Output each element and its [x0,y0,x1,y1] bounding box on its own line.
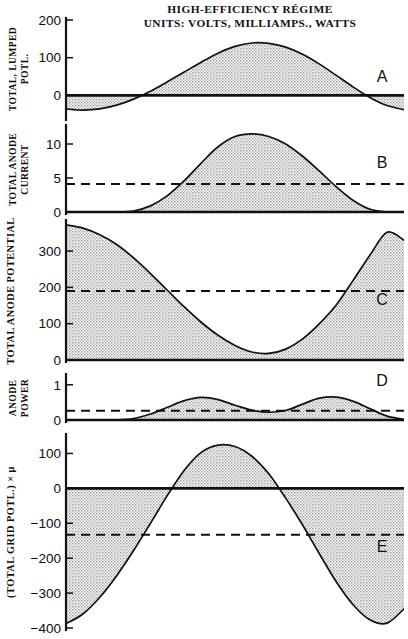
y-tick-label-d-1: 1 [53,378,61,393]
y-tick-label-d-0: 0 [53,413,61,428]
chart-panel-d: 01ANODEPOWERD [7,372,404,428]
y-tick-label-a-2: 200 [38,13,61,28]
y-axis-title-d-line-0: ANODE [7,380,18,417]
y-axis-title-c-line-0: TOTAL ANODE POTENTIAL [5,217,16,364]
panel-letter-b: B [377,154,388,171]
y-tick-label-e-0: −400 [31,621,61,636]
panel-letter-a: A [377,68,388,85]
y-axis-title-d-line-1: POWER [19,378,30,417]
y-tick-label-a-1: 100 [38,50,61,65]
y-tick-label-e-5: 100 [38,446,61,461]
y-axis-title-a-line-1: POTL. [19,54,30,85]
panel-letter-d: D [376,372,388,389]
y-tick-label-c-3: 300 [38,244,61,259]
y-tick-label-b-2: 10 [46,137,61,152]
curve-fill-a [66,43,404,110]
y-tick-label-e-3: −100 [31,516,61,531]
y-axis-title-b-line-1: CURRENT [19,144,30,194]
panel-group: 0100200TOTAL, LUMPEDPOTL.A0510TOTAL ANOD… [5,13,404,636]
figure-title: HIGH-EFFICIENCY RÉGIME UNITS: VOLTS, MIL… [144,3,357,29]
chart-panel-c: 0100200300TOTAL ANODE POTENTIALC [5,217,404,368]
title-line-2: UNITS: VOLTS, MILLIAMPS., WATTS [144,17,357,29]
y-tick-label-e-4: 0 [53,481,61,496]
y-axis-title-e-line-0: (TOTAL GRID POTL.) × μ [5,466,17,598]
y-tick-label-b-0: 0 [53,205,61,220]
y-axis-title-a-line-0: TOTAL, LUMPED [7,27,18,111]
panel-letter-c: C [376,291,388,308]
y-tick-label-e-2: −200 [31,551,61,566]
y-tick-label-e-1: −300 [31,586,61,601]
chart-panel-b: 0510TOTAL ANODECURRENTB [7,124,404,220]
y-tick-label-b-1: 5 [53,171,61,186]
figure-root: HIGH-EFFICIENCY RÉGIME UNITS: VOLTS, MIL… [0,0,408,639]
panel-letter-e: E [377,538,388,555]
curve-fill-d [66,397,404,420]
y-tick-label-a-0: 0 [53,88,61,103]
chart-panel-a: 0100200TOTAL, LUMPEDPOTL.A [7,13,404,121]
y-tick-label-c-1: 100 [38,316,61,331]
y-axis-title-b-line-0: TOTAL ANODE [7,133,18,206]
y-tick-label-c-0: 0 [53,353,61,368]
y-tick-label-c-2: 200 [38,280,61,295]
chart-panel-e: −400−300−200−1000100(TOTAL GRID POTL.) ×… [5,433,404,636]
title-line-1: HIGH-EFFICIENCY RÉGIME [167,3,332,15]
